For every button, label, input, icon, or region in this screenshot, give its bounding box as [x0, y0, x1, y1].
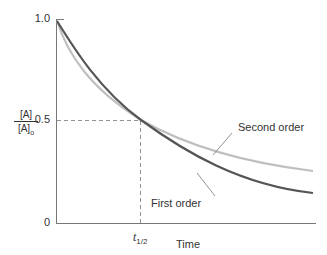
x-tick-label-t-half: t1/2 [133, 230, 147, 246]
second-order-label: Second order [238, 121, 304, 133]
y-tick-label-1: 1.0 [20, 12, 50, 24]
y-label-numerator: [A] [14, 109, 38, 122]
t-half-sub: 1/2 [136, 237, 147, 246]
second-order-leader [213, 133, 232, 155]
y-label-denominator: [A]o [14, 122, 38, 136]
y-label-denominator-sub: o [30, 129, 34, 136]
x-axis-label: Time [176, 238, 200, 250]
first-order-curve [57, 21, 313, 193]
y-label-denominator-text: [A] [18, 123, 30, 134]
y-tick-label-0: 0 [20, 216, 50, 228]
first-order-leader [197, 173, 215, 196]
first-order-label: First order [151, 197, 201, 209]
y-axis-label: [A] [A]o [14, 109, 38, 136]
